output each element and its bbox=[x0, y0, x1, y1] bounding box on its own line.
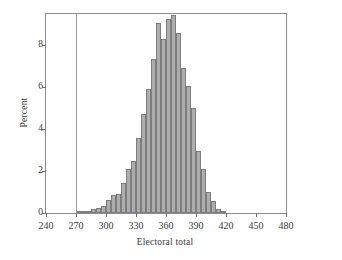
y-axis-title: Percent bbox=[16, 13, 32, 212]
x-tick-label: 390 bbox=[189, 219, 204, 232]
x-tick-label: 450 bbox=[249, 219, 264, 232]
x-tick-label: 420 bbox=[219, 219, 234, 232]
x-tick-label: 300 bbox=[99, 219, 114, 232]
x-tick-label: 240 bbox=[39, 219, 54, 232]
bar-series bbox=[46, 14, 286, 213]
y-tick-label: 2 bbox=[38, 164, 43, 177]
x-tick-label: 330 bbox=[129, 219, 144, 232]
x-tick-mark bbox=[136, 213, 137, 217]
histogram-figure: Percent 02468240270300330360390420450480… bbox=[0, 0, 342, 260]
x-tick-mark bbox=[166, 213, 167, 217]
y-tick-label: 8 bbox=[38, 38, 43, 51]
x-axis-title: Electoral total bbox=[45, 237, 285, 247]
x-tick-mark bbox=[286, 213, 287, 217]
y-tick-label: 0 bbox=[38, 206, 43, 219]
y-tick-label: 6 bbox=[38, 80, 43, 93]
plot-area: 02468240270300330360390420450480 bbox=[45, 13, 287, 214]
x-tick-mark bbox=[46, 213, 47, 217]
x-tick-label: 360 bbox=[159, 219, 174, 232]
x-tick-mark bbox=[76, 213, 77, 217]
x-tick-label: 480 bbox=[279, 219, 294, 232]
x-tick-mark bbox=[196, 213, 197, 217]
reference-line-270 bbox=[76, 14, 77, 213]
x-tick-label: 270 bbox=[69, 219, 84, 232]
x-tick-mark bbox=[256, 213, 257, 217]
y-tick-label: 4 bbox=[38, 122, 43, 135]
x-tick-mark bbox=[106, 213, 107, 217]
x-tick-mark bbox=[226, 213, 227, 217]
